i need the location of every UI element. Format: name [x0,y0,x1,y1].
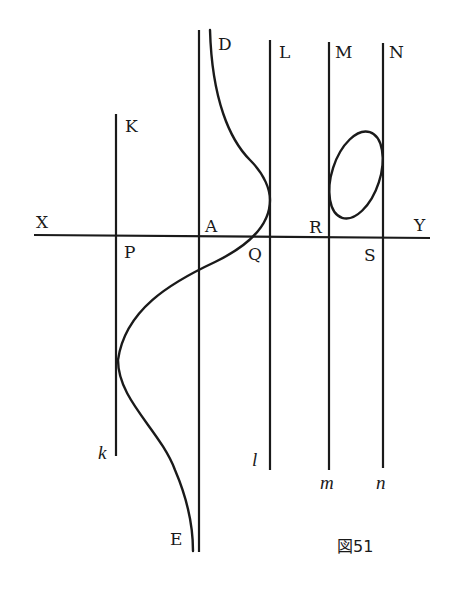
label-q: Q [248,244,262,264]
oval-curve [319,125,392,225]
label-k-lower: k [98,442,107,463]
label-d: D [218,34,232,54]
label-y: Y [413,215,426,235]
curve-de [118,30,270,551]
label-n-lower: n [376,472,386,493]
label-r: R [309,217,323,237]
label-l-lower: l [252,449,257,470]
axis-xy [34,235,430,238]
label-m-lower: m [320,472,334,493]
label-s: S [364,245,376,265]
label-k-upper: K [125,116,138,136]
label-p: P [124,242,135,262]
label-l-upper: L [279,42,290,62]
label-m-upper: M [335,42,352,62]
label-n-upper: N [389,42,404,62]
label-x: X [36,212,49,232]
figure-caption: 図51 [337,537,373,556]
label-a: A [204,216,218,236]
diagram-canvas: X Y A P Q R S D E K L M N k l m n 図51 [0,0,460,592]
label-e: E [170,529,182,549]
